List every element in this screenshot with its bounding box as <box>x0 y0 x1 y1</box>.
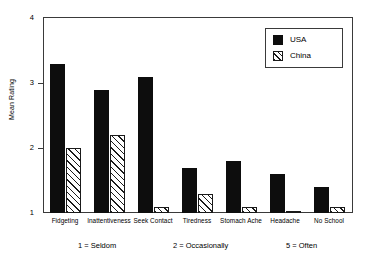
bar-headache-china <box>286 211 301 213</box>
y-tick-label: 4 <box>4 14 34 22</box>
bar-chart: Mean Rating 1234 FidgetingInattentivenes… <box>0 0 369 264</box>
bar-inattentiveness-china <box>110 135 125 213</box>
x-label-stomach-ache: Stomach Ache <box>219 216 263 225</box>
legend-entry-china: China <box>273 50 343 62</box>
bar-stomach-ache-usa <box>226 161 241 213</box>
scale-key-item-1: 2 = Occasionally <box>173 241 228 251</box>
bar-stomach-ache-china <box>242 207 257 214</box>
x-label-inattentiveness: Inattentiveness <box>87 216 131 225</box>
scale-key-item-2: 5 = Often <box>286 241 317 251</box>
y-tick-label: 2 <box>4 144 34 152</box>
hatched-square-icon <box>273 51 283 61</box>
bar-tiredness-usa <box>182 168 197 214</box>
x-label-headache: Headache <box>263 216 307 225</box>
legend: USA China <box>265 28 343 68</box>
x-label-fidgeting: Fidgeting <box>43 216 87 225</box>
bar-no-school-usa <box>314 187 329 213</box>
legend-label-china: China <box>290 50 311 62</box>
y-tick-label: 1 <box>4 209 34 217</box>
y-axis-label: Mean Rating <box>8 65 15 135</box>
bar-seek-contact-china <box>154 207 169 214</box>
bar-headache-usa <box>270 174 285 213</box>
bar-tiredness-china <box>198 194 213 214</box>
legend-label-usa: USA <box>290 34 306 46</box>
bar-fidgeting-usa <box>50 64 65 214</box>
x-label-seek-contact: Seek Contact <box>131 216 175 225</box>
bar-seek-contact-usa <box>138 77 153 214</box>
legend-entry-usa: USA <box>273 34 343 46</box>
x-label-no-school: No School <box>307 216 351 225</box>
x-axis-category-labels: FidgetingInattentivenessSeek ContactTire… <box>43 216 353 228</box>
y-tick-label: 3 <box>4 79 34 87</box>
bar-no-school-china <box>330 207 345 214</box>
bar-fidgeting-china <box>66 148 81 213</box>
solid-black-square-icon <box>273 35 283 45</box>
scale-key: 1 = Seldom 2 = Occasionally 5 = Often <box>43 241 353 253</box>
scale-key-item-0: 1 = Seldom <box>78 241 116 251</box>
bar-inattentiveness-usa <box>94 90 109 214</box>
x-label-tiredness: Tiredness <box>175 216 219 225</box>
